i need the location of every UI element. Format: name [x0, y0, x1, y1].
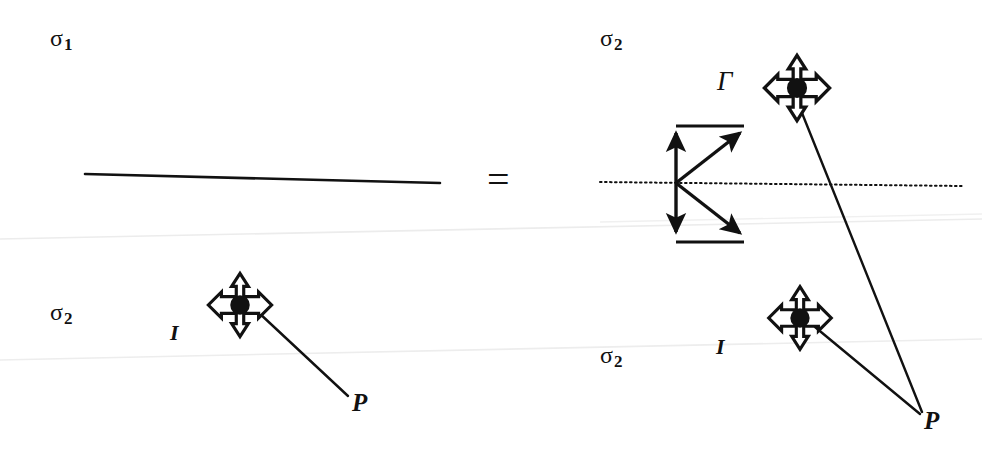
label-sigma-2-right-top: σ2	[600, 26, 622, 53]
solid-line-sigma1	[85, 174, 440, 183]
left-panel	[85, 174, 440, 396]
move-cursor-icon-gamma[interactable]	[764, 55, 829, 120]
label-sigma-2-left: σ2	[50, 300, 72, 327]
move-cursor-icon-left[interactable]	[208, 273, 271, 336]
move-cursor-icon-right[interactable]	[769, 287, 832, 350]
label-sigma-1-left: σ1	[50, 26, 72, 53]
scan-artifact-lines	[0, 214, 982, 360]
dotted-line-sigma2	[600, 182, 962, 186]
label-point-I-right: I	[716, 336, 725, 358]
label-point-I-left: I	[170, 322, 179, 344]
label-gamma: Γ	[717, 68, 732, 95]
figure-canvas	[0, 0, 982, 456]
label-point-P-left: P	[352, 390, 367, 415]
vector-up-right	[676, 133, 740, 183]
right-panel	[600, 55, 962, 414]
label-point-P-right: P	[924, 408, 939, 433]
label-sigma-2-right-bottom: σ2	[600, 343, 622, 370]
equals-sign: =	[487, 160, 510, 200]
